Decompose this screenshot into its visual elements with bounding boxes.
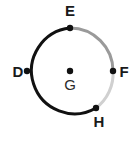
point-h-dot <box>93 105 99 111</box>
circle-diagram: G E D F H <box>0 0 139 143</box>
point-e-label: E <box>65 2 75 19</box>
center-point-label: G <box>64 76 76 93</box>
point-d-dot <box>24 68 30 74</box>
diagram-canvas: G E D F H <box>0 0 139 143</box>
point-f-label: F <box>119 63 128 80</box>
arc-major-e-d-h <box>31 28 96 114</box>
point-e-dot <box>67 25 73 31</box>
center-point-dot <box>67 68 73 74</box>
point-d-label: D <box>13 63 24 80</box>
point-h-label: H <box>94 113 105 130</box>
point-f-dot <box>110 68 116 74</box>
arc-e-f <box>70 28 113 71</box>
arc-f-h <box>96 71 113 108</box>
